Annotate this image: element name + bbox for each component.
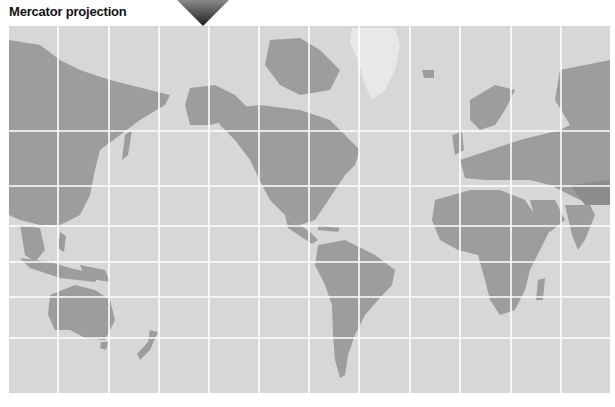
location-marker-icon — [177, 0, 229, 26]
iceland — [422, 70, 434, 78]
map-title: Mercator projection — [9, 4, 127, 19]
world-map — [9, 26, 610, 393]
